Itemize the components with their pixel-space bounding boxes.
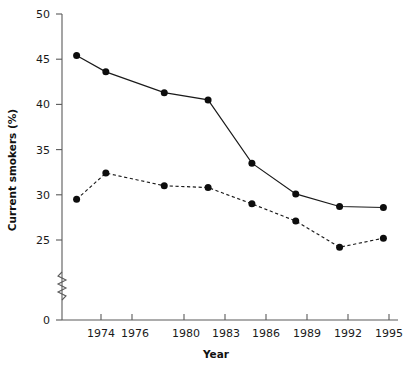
y-axis-ticks (56, 14, 62, 320)
chart-container: 50 45 40 35 30 25 0 1974 1976 1980 1983 … (0, 0, 413, 369)
data-point-marker (336, 203, 343, 210)
data-point-marker (73, 52, 80, 59)
y-tick-label-zero: 0 (43, 314, 50, 327)
y-tick-label-50: 50 (36, 8, 50, 21)
y-tick-label-40: 40 (36, 98, 50, 111)
data-point-marker (102, 170, 109, 177)
series-path-solid (77, 56, 384, 208)
x-tick-label-1983: 1983 (212, 327, 240, 340)
x-tick-label-1989: 1989 (293, 327, 321, 340)
data-point-marker (205, 184, 212, 191)
data-point-marker (161, 89, 168, 96)
data-point-marker (102, 68, 109, 75)
data-point-marker (292, 190, 299, 197)
y-tick-label-45: 45 (36, 53, 50, 66)
series-path-dashed (77, 173, 384, 247)
y-tick-label-25: 25 (36, 234, 50, 247)
data-point-marker (336, 244, 343, 251)
x-tick-label-1986: 1986 (252, 327, 280, 340)
line-chart-svg: 50 45 40 35 30 25 0 1974 1976 1980 1983 … (0, 0, 413, 369)
data-point-marker (292, 218, 299, 225)
series-layer (73, 52, 387, 251)
x-tick-label-1980: 1980 (172, 327, 200, 340)
data-point-marker (205, 96, 212, 103)
x-tick-label-1992: 1992 (334, 327, 362, 340)
data-point-marker (248, 160, 255, 167)
y-axis-title: Current smokers (%) (6, 109, 18, 231)
x-tick-label-1976: 1976 (121, 327, 149, 340)
data-point-marker (73, 196, 80, 203)
data-point-marker (380, 204, 387, 211)
data-point-marker (380, 235, 387, 242)
x-tick-label-1974: 1974 (87, 327, 115, 340)
y-tick-label-35: 35 (36, 144, 50, 157)
x-axis-title: Year (202, 348, 230, 360)
data-point-marker (248, 200, 255, 207)
x-tick-label-1995: 1995 (375, 327, 403, 340)
x-axis-ticks (101, 314, 389, 320)
data-point-marker (161, 182, 168, 189)
y-tick-label-30: 30 (36, 189, 50, 202)
